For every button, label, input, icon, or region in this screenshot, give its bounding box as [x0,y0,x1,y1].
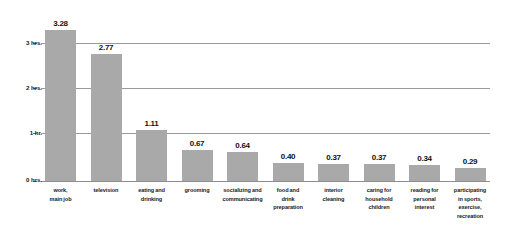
bar[interactable] [227,152,258,181]
category-label-line: cleaning [309,195,358,204]
category-label-line: recreation [446,212,495,221]
bar-group[interactable]: 0.37 [318,148,349,181]
bar-group[interactable]: 0.29 [455,152,486,181]
category-label-line: eating and [127,186,176,195]
bar-group[interactable]: 0.64 [227,136,258,181]
bar[interactable] [273,163,304,181]
bar-value-label: 0.34 [417,155,432,163]
bar-value-label: 1.11 [144,120,158,128]
bar-group[interactable]: 0.37 [364,148,395,181]
category-label-line: participating [446,186,495,195]
bar-group[interactable]: 0.34 [409,149,440,181]
category-label: participatingin sports,exercise,recreati… [446,186,495,221]
bar-group[interactable]: 0.67 [182,134,213,181]
bar[interactable] [318,164,349,181]
category-label-line: grooming [173,186,222,195]
category-label-line: in sports, [446,195,495,204]
bar[interactable] [136,130,167,181]
category-label: caring forhouseholdchildren [355,186,404,212]
category-label-line: food and [264,186,313,195]
bars-layer: 3.282.771.110.670.640.400.370.370.340.29 [0,0,512,251]
category-label: interiorcleaning [309,186,358,203]
bar-value-label: 0.37 [326,154,341,162]
bar-value-label: 0.29 [463,158,478,166]
category-label-line: personal [400,195,449,204]
bar-group[interactable]: 0.40 [273,147,304,181]
bar-chart: 3 hrs. 2 hrs. 1 hr. 0 hrs. 3.282.771.110… [0,0,512,251]
category-label: work,main job [36,186,85,203]
bar-group[interactable]: 3.28 [45,14,76,181]
bar[interactable] [45,30,76,181]
category-label: television [82,186,131,195]
bar[interactable] [182,150,213,181]
category-label-line: interest [400,203,449,212]
category-label-line: main job [36,195,85,204]
category-label-line: drink [264,195,313,204]
category-label: eating anddrinking [127,186,176,203]
category-label-line: reading for [400,186,449,195]
category-label-line: communicating [218,195,267,204]
bar-value-label: 0.64 [235,142,250,150]
category-label: food anddrinkpreparation [264,186,313,212]
bar-value-label: 3.28 [53,20,68,28]
bar[interactable] [455,168,486,181]
category-label-line: television [82,186,131,195]
bar[interactable] [91,54,122,181]
category-label-line: interior [309,186,358,195]
category-label-line: work, [36,186,85,195]
category-label-line: drinking [127,195,176,204]
bar-value-label: 2.77 [99,44,114,52]
bar[interactable] [409,165,440,181]
category-label-line: caring for [355,186,404,195]
bar-value-label: 0.67 [190,140,205,148]
bar-value-label: 0.40 [281,153,296,161]
bar-group[interactable]: 1.11 [136,114,167,181]
category-label: reading forpersonalinterest [400,186,449,212]
category-label-line: preparation [264,203,313,212]
category-label-line: household [355,195,404,204]
bar-group[interactable]: 2.77 [91,38,122,181]
bar[interactable] [364,164,395,181]
category-label-line: socializing and [218,186,267,195]
category-label: socializing andcommunicating [218,186,267,203]
category-label-line: children [355,203,404,212]
category-label-line: exercise, [446,203,495,212]
category-label: grooming [173,186,222,195]
bar-value-label: 0.37 [372,154,387,162]
